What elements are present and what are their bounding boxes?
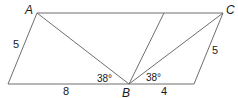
angle-label-right: 38° [146, 72, 161, 83]
vertex-label-b: B [122, 86, 130, 98]
vertex-label-a: A [24, 3, 33, 17]
side-label-bottom-right: 4 [161, 85, 167, 97]
side-label-left: 5 [13, 38, 19, 50]
vertex-label-c: C [226, 3, 235, 17]
segment-ab [37, 13, 129, 84]
geometry-diagram: A C B 5 5 8 4 38° 38° [0, 0, 238, 98]
angle-label-left: 38° [97, 73, 112, 84]
side-label-right: 5 [212, 44, 218, 56]
side-label-bottom-left: 8 [63, 85, 69, 97]
